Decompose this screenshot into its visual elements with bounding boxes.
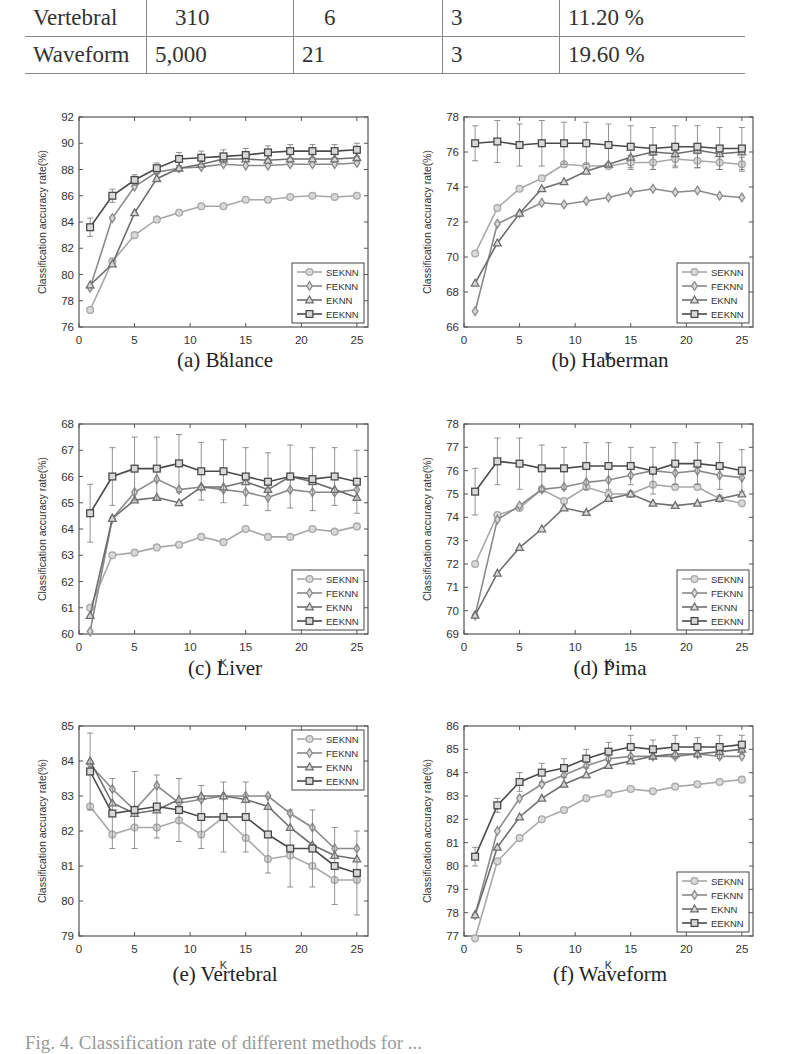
seknn-marker bbox=[131, 232, 138, 239]
seknn-marker bbox=[220, 539, 227, 546]
eeknn-marker bbox=[472, 140, 479, 147]
seknn-marker bbox=[353, 192, 360, 199]
seknn-marker bbox=[561, 807, 568, 814]
y-tick-label: 72 bbox=[446, 216, 459, 228]
eeknn-marker bbox=[220, 468, 227, 475]
legend-label: SEKNN bbox=[326, 734, 359, 745]
y-tick-label: 79 bbox=[446, 883, 459, 895]
seknn-marker bbox=[220, 203, 227, 210]
x-tick-label: 15 bbox=[624, 943, 637, 955]
seknn-marker bbox=[738, 776, 745, 783]
x-tick-label: 20 bbox=[295, 334, 308, 346]
eeknn-marker bbox=[153, 465, 160, 472]
feknn-marker bbox=[243, 161, 249, 170]
y-tick-label: 77 bbox=[446, 930, 459, 942]
x-tick-label: 25 bbox=[735, 943, 748, 955]
legend-label: EEKNN bbox=[711, 616, 744, 627]
cell-dataset: Waveform bbox=[25, 37, 147, 74]
feknn-marker bbox=[650, 184, 656, 193]
eeknn-marker bbox=[331, 473, 338, 480]
seknn-marker bbox=[494, 858, 501, 865]
x-tick-label: 25 bbox=[350, 334, 363, 346]
eeknn-marker bbox=[538, 140, 545, 147]
legend-label: EKNN bbox=[326, 602, 353, 613]
seknn-marker bbox=[309, 526, 316, 533]
y-tick-label: 90 bbox=[61, 137, 74, 149]
y-tick-label: 64 bbox=[61, 523, 74, 535]
legend: SEKNNFEKNNEKNNEEKNN bbox=[677, 263, 749, 323]
x-tick-label: 10 bbox=[184, 943, 197, 955]
seknn-marker bbox=[153, 216, 160, 223]
eeknn-marker bbox=[265, 831, 272, 838]
eeknn-marker bbox=[561, 140, 568, 147]
eknn-marker bbox=[538, 794, 546, 801]
eeknn-marker bbox=[353, 870, 360, 877]
seknn-marker bbox=[583, 795, 590, 802]
eeknn-marker bbox=[131, 807, 138, 814]
y-tick-label: 71 bbox=[446, 581, 459, 593]
legend-label: EEKNN bbox=[326, 776, 359, 787]
x-tick-label: 15 bbox=[239, 641, 252, 653]
eeknn-marker bbox=[494, 802, 501, 809]
legend-label: EKNN bbox=[711, 602, 738, 613]
legend-seknn-marker bbox=[691, 878, 698, 885]
x-tick-label: 20 bbox=[680, 334, 693, 346]
y-tick-label: 86 bbox=[61, 190, 74, 202]
y-tick-label: 84 bbox=[446, 767, 459, 779]
seknn-marker bbox=[309, 192, 316, 199]
x-tick-label: 5 bbox=[516, 641, 522, 653]
y-tick-label: 61 bbox=[61, 602, 74, 614]
table-row: Waveform 5,000 21 3 19.60 % bbox=[25, 37, 745, 74]
figure-caption: Fig. 4. Classification rate of different… bbox=[25, 1032, 422, 1054]
eeknn-marker bbox=[153, 803, 160, 810]
feknn-marker bbox=[628, 188, 634, 197]
seknn-marker bbox=[109, 552, 116, 559]
y-axis-label: Classification accuracy rate(%) bbox=[421, 150, 433, 294]
eeknn-marker bbox=[472, 853, 479, 860]
y-tick-label: 81 bbox=[61, 860, 74, 872]
series-eeknn bbox=[87, 143, 361, 236]
eeknn-marker bbox=[353, 478, 360, 485]
eeknn-marker bbox=[287, 473, 294, 480]
eeknn-marker bbox=[131, 465, 138, 472]
seknn-marker bbox=[131, 549, 138, 556]
subcaption-waveform: (f) Waveform bbox=[460, 962, 760, 987]
seknn-marker bbox=[472, 250, 479, 257]
y-tick-label: 74 bbox=[446, 511, 459, 523]
subcaption-liver: (c) Liver bbox=[75, 656, 375, 681]
eeknn-marker bbox=[561, 765, 568, 772]
eeknn-marker bbox=[583, 140, 590, 147]
legend: SEKNNFEKNNEKNNEEKNN bbox=[677, 570, 749, 630]
x-tick-label: 15 bbox=[239, 943, 252, 955]
legend-eeknn-marker bbox=[306, 778, 313, 785]
eeknn-marker bbox=[242, 814, 249, 821]
seknn-marker bbox=[494, 205, 501, 212]
y-axis-label: Classification accuracy rate(%) bbox=[36, 150, 48, 294]
feknn-marker bbox=[672, 188, 678, 197]
x-tick-label: 0 bbox=[461, 943, 467, 955]
y-tick-label: 84 bbox=[61, 755, 74, 767]
y-tick-label: 63 bbox=[61, 549, 74, 561]
legend-seknn-marker bbox=[306, 576, 313, 583]
eeknn-marker bbox=[605, 142, 612, 149]
legend-label: FEKNN bbox=[326, 748, 358, 759]
legend-eeknn-marker bbox=[691, 618, 698, 625]
seknn-marker bbox=[331, 194, 338, 201]
y-tick-label: 74 bbox=[446, 181, 459, 193]
seknn-marker bbox=[176, 209, 183, 216]
eeknn-marker bbox=[109, 810, 116, 817]
seknn-marker bbox=[287, 533, 294, 540]
legend-label: EKNN bbox=[326, 295, 353, 306]
eeknn-marker bbox=[605, 748, 612, 755]
eeknn-marker bbox=[738, 467, 745, 474]
legend: SEKNNFEKNNEKNNEEKNN bbox=[292, 730, 364, 790]
cell-instances: 5,000 bbox=[147, 37, 294, 74]
cell-classes: 3 bbox=[443, 37, 560, 74]
eeknn-marker bbox=[265, 149, 272, 156]
y-tick-label: 66 bbox=[446, 321, 459, 333]
seknn-marker bbox=[353, 523, 360, 530]
eeknn-marker bbox=[561, 465, 568, 472]
legend-label: FEKNN bbox=[711, 890, 743, 901]
y-tick-label: 78 bbox=[61, 295, 74, 307]
y-axis-label: Classification accuracy rate(%) bbox=[421, 457, 433, 601]
